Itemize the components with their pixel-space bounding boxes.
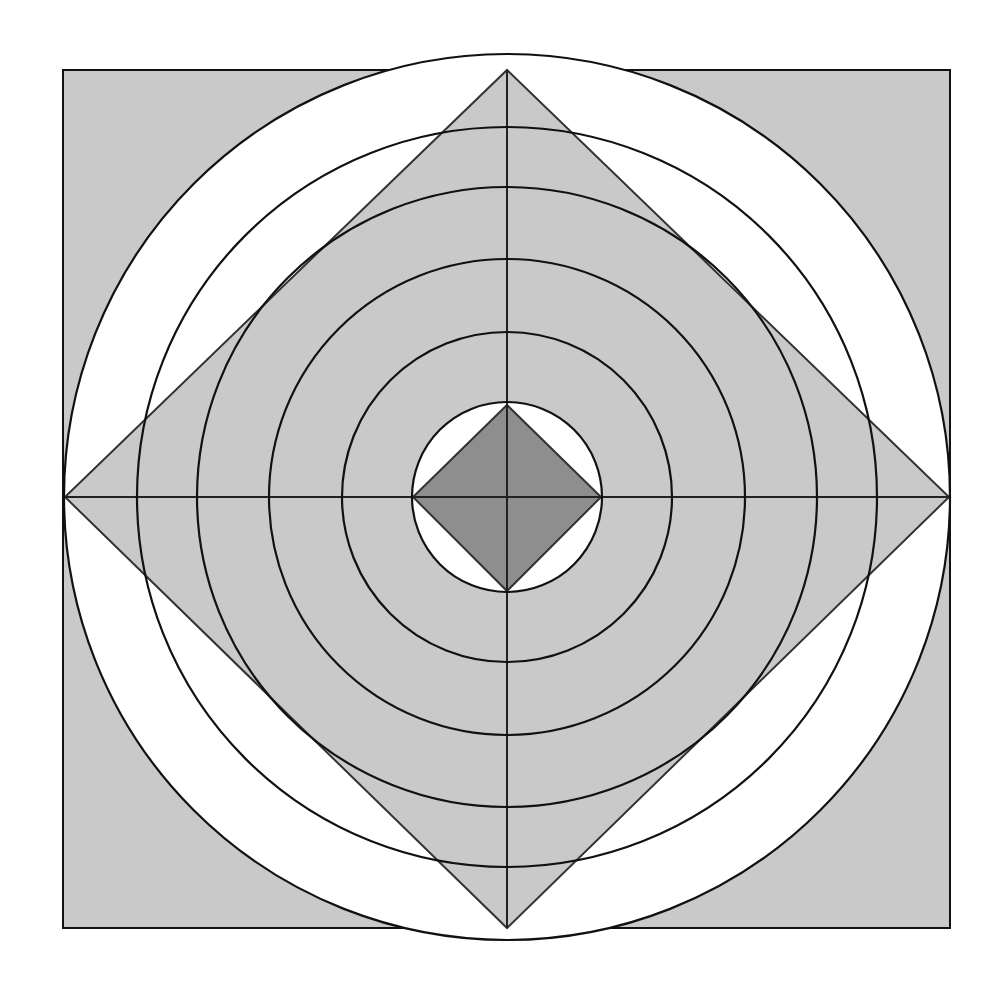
figure-canvas xyxy=(0,0,1005,994)
concentric-diamond-figure xyxy=(0,0,1005,994)
